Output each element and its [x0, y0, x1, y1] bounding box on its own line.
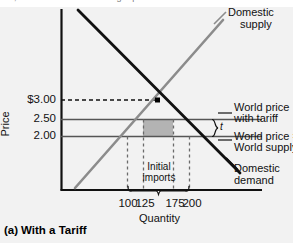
tariff-gap-brace: [212, 120, 218, 137]
x-axis-title: Quantity: [139, 212, 180, 224]
figure-caption: (a)With a Tariff: [4, 224, 87, 236]
world-price-with-tariff-label-line2: with tariff: [234, 112, 278, 124]
domestic-demand-curve: [78, 10, 240, 173]
domestic-demand-label-line1: Domestic: [234, 162, 280, 174]
tariff-revenue-shaded-box: [143, 120, 173, 137]
y-tick-label-250: 2.50: [6, 112, 56, 124]
x-tick-label-200: 200: [182, 197, 201, 209]
x-tick-labels: 100 125 175 200: [61, 197, 261, 211]
tariff-diagram-figure: at, the decrease in the weight price of …: [0, 0, 293, 243]
domestic-demand-label-line2: demand: [234, 174, 274, 186]
figure-caption-number: (a): [4, 224, 18, 236]
domestic-supply-label-line1: Domestic: [228, 6, 274, 18]
y-tick-label-200: 2.00: [6, 129, 56, 141]
domestic-supply-label-line2: supply: [240, 18, 272, 30]
initial-imports-label-line2: imports: [131, 172, 187, 183]
equilibrium-point-marker: [155, 98, 160, 103]
y-tick-label-300: $3.00: [6, 93, 56, 105]
figure-caption-text: With a Tariff: [21, 224, 87, 236]
tariff-gap-symbol: t: [220, 121, 223, 132]
x-tick-label-125: 125: [135, 197, 154, 209]
initial-imports-label-line1: Initial: [131, 161, 187, 172]
world-price-world-supply-label-line2: World supply: [234, 141, 293, 153]
